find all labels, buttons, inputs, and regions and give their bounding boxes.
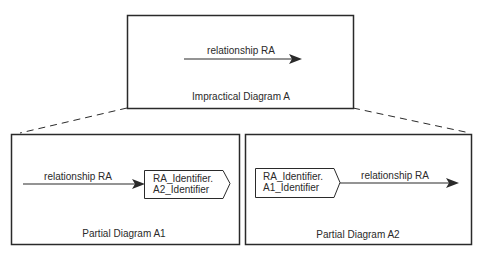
impractical-diagram-title: Impractical Diagram A (192, 91, 290, 102)
identifier-line2: A1_Identifier (263, 182, 323, 193)
partial-diagram-a1-title: Partial Diagram A1 (82, 228, 165, 239)
identifier-line2: A2_Identifier (153, 184, 213, 195)
zoom-connector-right (353, 108, 470, 133)
identifier-a2: RA_Identifier. A1_Identifier (263, 171, 323, 193)
identifier-line1: RA_Identifier. (263, 171, 323, 182)
relationship-label-top: relationship RA (207, 45, 275, 56)
identifier-a1: RA_Identifier. A2_Identifier (153, 173, 213, 195)
diagram-canvas (0, 0, 484, 259)
zoom-connector-left (20, 108, 127, 133)
relationship-label-a1: relationship RA (44, 171, 112, 182)
relationship-label-a2: relationship RA (361, 170, 429, 181)
partial-diagram-a2-title: Partial Diagram A2 (316, 229, 399, 240)
identifier-line1: RA_Identifier. (153, 173, 213, 184)
